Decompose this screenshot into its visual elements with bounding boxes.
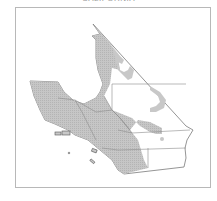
island-4	[90, 159, 95, 164]
island-5	[68, 152, 70, 154]
island-2	[62, 131, 70, 135]
island-1	[55, 132, 61, 135]
map-canvas	[0, 0, 217, 201]
shaded-spot	[160, 137, 164, 141]
island-3	[91, 148, 97, 153]
